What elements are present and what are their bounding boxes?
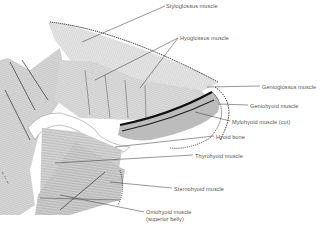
label-hyoglossus: Hyoglossus muscle — [180, 35, 229, 42]
label-omohyoid-subtitle: (superior belly) — [146, 216, 184, 223]
label-mylohyoid: Mylohyoid muscle (cut) — [232, 119, 290, 126]
label-thyrohyoid: Thyrohyoid muscle — [195, 153, 243, 160]
label-hyoid-bone: Hyoid bone — [216, 134, 245, 141]
label-genioglossus: Genioglossus muscle — [262, 84, 316, 91]
label-styloglossus: Styloglossus muscle — [166, 3, 218, 10]
label-geniohyoid: Geniohyoid muscle — [250, 103, 298, 110]
label-sternohyoid: Sternohyoid muscle — [174, 186, 224, 193]
anatomy-illustration — [0, 0, 320, 227]
infrahyoid-straps — [35, 128, 125, 215]
